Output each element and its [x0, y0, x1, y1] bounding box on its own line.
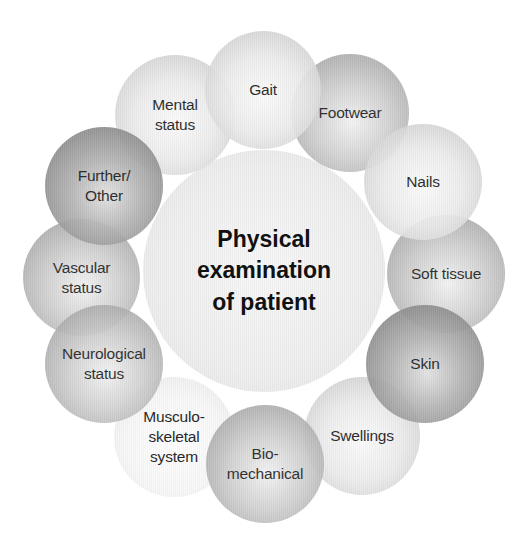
- node-further-other: Further/ Other: [45, 127, 163, 245]
- node-label: Nails: [406, 172, 439, 192]
- node-label: Swellings: [330, 426, 394, 446]
- node-nails: Nails: [364, 124, 482, 240]
- node-skin: Skin: [366, 305, 484, 423]
- node-label: Musculo- skeletal system: [143, 407, 204, 466]
- node-bio-mechanical: Bio- mechanical: [206, 405, 324, 523]
- center-node-label: Physical examination of patient: [197, 224, 331, 318]
- center-node-physical-examination: Physical examination of patient: [143, 150, 385, 392]
- node-neurological-status: Neurological status: [45, 305, 163, 423]
- node-label: Skin: [410, 354, 439, 374]
- node-label: Vascular status: [53, 258, 111, 298]
- node-label: Footwear: [318, 103, 381, 123]
- node-label: Neurological status: [62, 344, 146, 384]
- node-label: Gait: [249, 80, 277, 100]
- node-label: Mental status: [152, 95, 197, 135]
- node-label: Further/ Other: [78, 166, 131, 206]
- node-label: Bio- mechanical: [227, 444, 303, 484]
- examination-diagram: Physical examination of patient Musculo-…: [0, 0, 519, 545]
- node-label: Soft tissue: [411, 264, 481, 284]
- node-gait: Gait: [205, 31, 321, 149]
